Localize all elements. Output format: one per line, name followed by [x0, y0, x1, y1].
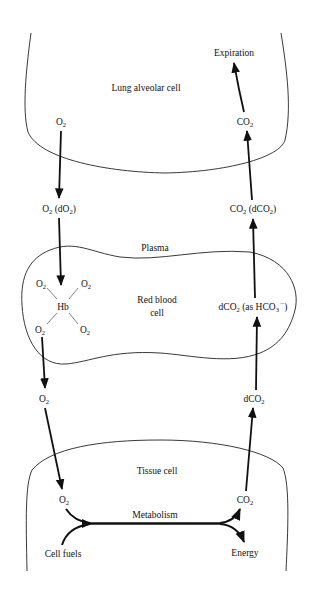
blood-o2-label: O2: [39, 394, 49, 405]
lung-o2-label: O2: [56, 117, 66, 128]
hb-o2-top-right: O2: [81, 279, 91, 290]
hb-o2-bottom-right: O2: [80, 325, 90, 336]
hb-label: Hb: [57, 302, 69, 312]
arrow-hb-to-blood-o2: [42, 337, 45, 388]
plasma-o2-label: O2 (dO2): [42, 204, 76, 215]
lung-cell-label: Lung alveolar cell: [111, 83, 180, 93]
arrow-blood-o2-to-tissue: [45, 408, 62, 489]
rbc-label-line1: Red blood: [137, 295, 177, 305]
plasma-co2-label: CO2 (dCO2): [230, 204, 276, 215]
arrow-plasma-co2-to-lung: [247, 131, 252, 200]
rbc-dco2-label: dCO2 (as HCO3 −): [219, 300, 288, 313]
tissue-o2-label: O2: [59, 495, 69, 506]
metabolism-junction: [82, 519, 92, 528]
rbc-label-line2: cell: [150, 308, 164, 318]
plasma-label: Plasma: [141, 243, 169, 253]
arrow-lung-o2-to-plasma: [59, 131, 61, 198]
metabolism-label: Metabolism: [132, 510, 178, 520]
blood-dco2-label: dCO2: [243, 394, 264, 405]
arrow-blood-dco2-to-rbc: [256, 317, 257, 390]
hb-o2-bottom-left: O2: [35, 325, 45, 336]
hb-o2-top-left: O2: [36, 279, 46, 290]
arrow-rbc-to-plasma-co2: [253, 219, 255, 298]
tissue-cell-label: Tissue cell: [137, 466, 178, 476]
energy-label: Energy: [231, 548, 259, 558]
arrow-co2-to-expiration: [234, 63, 244, 112]
arrow-plasma-o2-to-hb: [59, 218, 61, 285]
lung-co2-label: CO2: [237, 117, 253, 128]
respiration-diagram: Expiration Lung alveolar cell O2 CO2 O2 …: [0, 0, 311, 601]
expiration-label: Expiration: [214, 48, 254, 58]
cell-fuels-label: Cell fuels: [45, 549, 82, 559]
arrow-tissue-co2-to-blood: [246, 408, 253, 491]
tissue-co2-label: CO2: [237, 495, 253, 506]
